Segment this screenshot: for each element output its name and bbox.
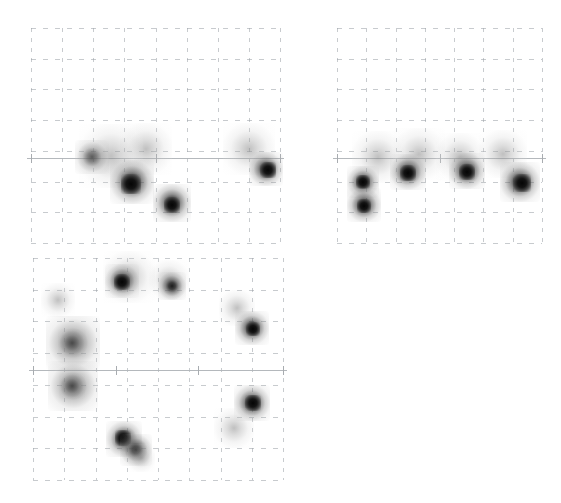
gridline-horizontal — [337, 59, 542, 60]
gridline-horizontal — [31, 182, 280, 183]
axis-tick — [116, 366, 117, 375]
gridline-horizontal — [31, 89, 280, 90]
gridline-horizontal — [31, 120, 280, 121]
gridline-horizontal — [31, 243, 280, 244]
data-blob — [356, 175, 370, 189]
axis-tick — [31, 154, 32, 163]
data-blob — [121, 174, 141, 194]
data-blob — [59, 373, 85, 399]
panel-bottom-left — [33, 258, 283, 480]
axis-tick — [283, 366, 284, 375]
gridline-horizontal — [33, 480, 283, 481]
data-blob — [214, 408, 254, 448]
panel-top-right — [337, 28, 542, 243]
axis-tick — [542, 154, 543, 163]
data-blob — [357, 199, 371, 213]
data-blob — [513, 174, 531, 192]
data-blob — [58, 329, 86, 357]
data-blob — [158, 272, 186, 300]
panel-top-left — [31, 28, 280, 243]
gridline-horizontal — [337, 89, 542, 90]
data-blob — [164, 197, 180, 213]
gridline-vertical — [280, 28, 281, 243]
gridline-horizontal — [31, 28, 280, 29]
data-blob — [114, 274, 130, 290]
gridline-vertical — [31, 28, 32, 243]
data-blob — [400, 165, 416, 181]
gridline-horizontal — [337, 28, 542, 29]
data-blob — [127, 444, 155, 472]
data-blob — [246, 322, 260, 336]
data-blob — [459, 164, 475, 180]
gridline-horizontal — [33, 258, 283, 259]
data-blob — [75, 140, 109, 174]
figure-canvas — [0, 0, 561, 503]
gridline-horizontal — [337, 120, 542, 121]
gridline-vertical — [542, 28, 543, 243]
data-blob — [260, 162, 276, 178]
gridline-vertical — [62, 28, 63, 243]
axis-tick — [337, 154, 338, 163]
gridline-horizontal — [31, 59, 280, 60]
gridline-vertical — [337, 28, 338, 243]
axis-tick — [33, 366, 34, 375]
axis-tick — [198, 366, 199, 375]
gridline-horizontal — [337, 243, 542, 244]
data-blob — [41, 283, 75, 317]
gridline-horizontal — [33, 448, 283, 449]
gridline-vertical — [218, 28, 219, 243]
